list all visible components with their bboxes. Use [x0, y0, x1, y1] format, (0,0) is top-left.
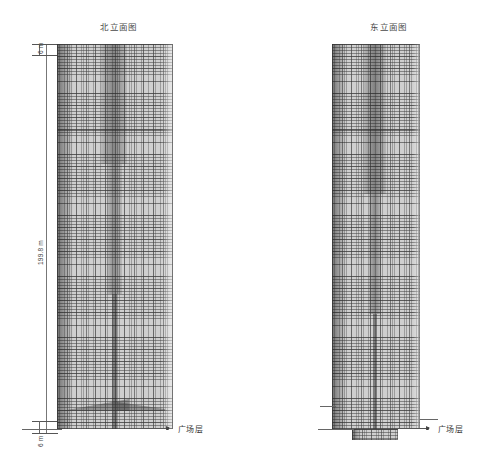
east-elevation-tower — [332, 44, 420, 429]
dimension-spine — [46, 45, 47, 433]
east-podium-facade — [352, 429, 398, 440]
dim-tick-top-lower — [32, 55, 58, 56]
east-elevation-title: 东立面图 — [325, 20, 453, 32]
dim-label-main: 199.8 m — [37, 240, 44, 265]
east-reference-line-right — [420, 419, 438, 420]
north-callout-label: 广场层 — [178, 423, 203, 434]
east-ground-line — [318, 429, 354, 430]
north-callout-arrow-icon — [166, 426, 170, 430]
east-callout-leader — [398, 428, 428, 429]
dim-label-top: 6 m — [37, 43, 44, 54]
east-callout-arrow-icon — [426, 426, 430, 430]
dim-label-bottom: 6 m — [37, 436, 44, 447]
dim-tick-bottom-upper — [32, 421, 58, 422]
drawing-sheet: 北立面图 东立面图 6 m 199.8 m 6 m — [0, 0, 488, 470]
north-elevation-title: 北立面图 — [62, 20, 176, 32]
dim-arrow-bottom — [39, 421, 40, 433]
north-facade-grid — [57, 44, 173, 429]
east-callout-label: 广场层 — [438, 423, 463, 434]
east-reference-line-upper — [320, 406, 336, 407]
east-podium-step — [352, 429, 398, 440]
north-elevation-tower — [57, 44, 173, 429]
north-ground-line — [22, 429, 62, 430]
dim-tick-bottom-lower — [32, 433, 58, 434]
east-facade-grid — [332, 44, 420, 429]
north-callout-leader — [140, 428, 168, 429]
dim-tick-top-upper — [32, 44, 58, 45]
